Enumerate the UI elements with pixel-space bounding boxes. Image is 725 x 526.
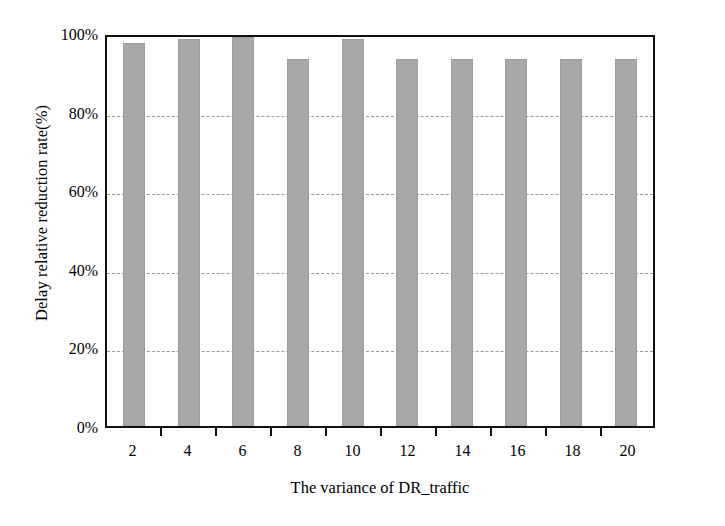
bar[interactable] bbox=[342, 39, 364, 426]
bar[interactable] bbox=[287, 59, 309, 426]
y-axis-tick-label: 40% bbox=[40, 263, 98, 279]
bar-slot bbox=[544, 37, 599, 426]
bar-slot bbox=[216, 37, 271, 426]
bar[interactable] bbox=[451, 59, 473, 426]
x-axis-tick-labels: 2468101214161820 bbox=[105, 441, 655, 467]
x-axis-tick-mark bbox=[490, 428, 492, 436]
bar[interactable] bbox=[396, 59, 418, 426]
x-axis-tick-mark bbox=[545, 428, 547, 436]
bar-slot bbox=[107, 37, 162, 426]
x-axis-tick-label: 14 bbox=[435, 441, 490, 467]
x-axis-tick-label: 2 bbox=[105, 441, 160, 467]
bar[interactable] bbox=[505, 59, 527, 426]
bar-slot bbox=[489, 37, 544, 426]
x-axis-tick-mark bbox=[380, 428, 382, 436]
x-axis-tick-mark bbox=[215, 428, 217, 436]
x-axis-tick-label: 20 bbox=[600, 441, 655, 467]
x-axis-tick-mark bbox=[160, 428, 162, 436]
y-axis-tick-label: 20% bbox=[40, 341, 98, 357]
x-axis-tick-marks bbox=[105, 428, 655, 437]
x-axis-title: The variance of DR_traffic bbox=[105, 478, 655, 498]
plot-area bbox=[105, 35, 655, 428]
y-axis-tick-label: 60% bbox=[40, 184, 98, 200]
x-axis-tick-label: 12 bbox=[380, 441, 435, 467]
bar-series bbox=[107, 37, 653, 426]
bar[interactable] bbox=[178, 39, 200, 426]
bar-chart-figure: Delay relative reduction rate(%) 0%20%40… bbox=[0, 0, 725, 526]
x-axis-tick-label: 18 bbox=[545, 441, 600, 467]
y-axis-tick-label: 80% bbox=[40, 106, 98, 122]
x-axis-tick-label: 10 bbox=[325, 441, 380, 467]
x-axis-tick-label: 4 bbox=[160, 441, 215, 467]
y-axis-tick-label: 0% bbox=[40, 420, 98, 436]
bar[interactable] bbox=[123, 43, 145, 426]
x-axis-tick-mark bbox=[270, 428, 272, 436]
bar[interactable] bbox=[615, 59, 637, 426]
x-axis-tick-label: 6 bbox=[215, 441, 270, 467]
bar[interactable] bbox=[560, 59, 582, 426]
x-axis-tick-label: 8 bbox=[270, 441, 325, 467]
x-axis-tick-mark bbox=[435, 428, 437, 436]
bar-slot bbox=[380, 37, 435, 426]
bar-slot bbox=[271, 37, 326, 426]
x-axis-tick-mark bbox=[600, 428, 602, 436]
bar-slot bbox=[162, 37, 217, 426]
bar-slot bbox=[435, 37, 490, 426]
x-axis-tick-mark bbox=[325, 428, 327, 436]
bar[interactable] bbox=[232, 37, 254, 426]
y-axis-tick-labels: 0%20%40%60%80%100% bbox=[34, 0, 98, 526]
bar-slot bbox=[598, 37, 653, 426]
y-axis-tick-label: 100% bbox=[40, 27, 98, 43]
bar-slot bbox=[325, 37, 380, 426]
x-axis-tick-label: 16 bbox=[490, 441, 545, 467]
